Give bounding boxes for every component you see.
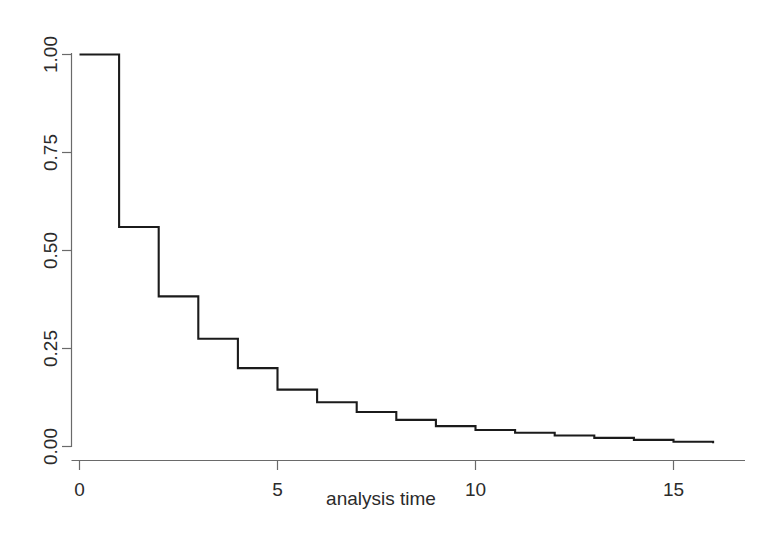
- x-axis-title: analysis time: [326, 488, 436, 509]
- survivor-step-curve: [80, 55, 714, 444]
- y-tick-label-1-00: 1.00: [40, 36, 61, 73]
- x-axis-ticks: [80, 461, 674, 471]
- y-tick-label-0-50: 0.50: [40, 232, 61, 269]
- y-tick-label-0-75: 0.75: [40, 134, 61, 171]
- y-axis-ticks: [62, 55, 72, 447]
- x-tick-label-15: 15: [663, 479, 684, 500]
- y-tick-label-0-25: 0.25: [40, 330, 61, 367]
- chart-canvas: 1.00 0.75 0.50 0.25 0.00 0 5 10 15 analy…: [0, 0, 761, 548]
- y-axis-tick-labels: 1.00 0.75 0.50 0.25 0.00: [40, 36, 61, 465]
- x-tick-label-0: 0: [74, 479, 85, 500]
- y-tick-label-0-00: 0.00: [40, 428, 61, 465]
- x-tick-label-10: 10: [465, 479, 486, 500]
- x-tick-label-5: 5: [272, 479, 283, 500]
- survival-curve-figure: 1.00 0.75 0.50 0.25 0.00 0 5 10 15 analy…: [0, 0, 761, 548]
